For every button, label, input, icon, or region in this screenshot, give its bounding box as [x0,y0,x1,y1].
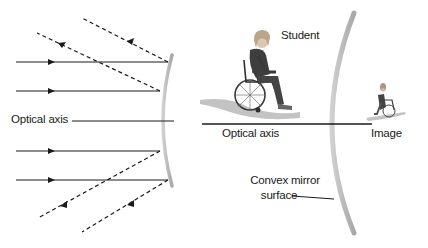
student-figure [235,30,292,113]
optical-axis-label-right: Optical axis [222,127,279,139]
convex-mirror-label-line2: surface [219,188,339,203]
convex-mirror-diagram: Optical axis Optical axis Student Image … [0,0,428,248]
optical-axis-label-left: Optical axis [11,113,68,125]
image-figure [374,83,395,117]
convex-mirror-label-line1: Convex mirror [231,173,339,188]
convex-mirror-label: Convex mirror surface [231,173,339,203]
reflected-arrowheads [58,38,134,208]
student-label: Student [281,29,319,41]
reflected-rays [37,18,168,232]
image-label: Image [371,127,402,139]
